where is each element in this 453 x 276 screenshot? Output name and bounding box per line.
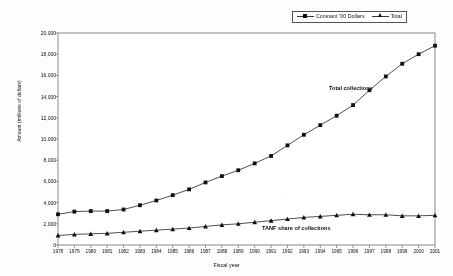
data-point-marker bbox=[351, 103, 355, 107]
x-tick-label: 1992 bbox=[282, 249, 292, 254]
x-tick-label: 1985 bbox=[168, 249, 178, 254]
data-point-marker bbox=[204, 181, 208, 185]
data-point-marker bbox=[187, 187, 191, 191]
x-tick-label: 1995 bbox=[331, 249, 341, 254]
data-point-marker bbox=[269, 154, 273, 158]
y-axis-title: Amount (millions of dollars) bbox=[16, 36, 22, 186]
x-tick-label: 1979 bbox=[69, 249, 79, 254]
data-point-marker bbox=[105, 209, 109, 213]
x-tick-label: 1999 bbox=[397, 249, 407, 254]
x-axis-title: Fiscal year bbox=[0, 262, 453, 268]
x-tick-label: 1984 bbox=[151, 249, 161, 254]
plot-frame bbox=[58, 33, 435, 245]
chart-plot-area bbox=[0, 0, 453, 276]
x-tick-label: 1980 bbox=[86, 249, 96, 254]
x-tick-label: 1982 bbox=[118, 249, 128, 254]
y-tick-label: 18,000 bbox=[6, 51, 56, 57]
data-point-marker bbox=[154, 199, 158, 203]
legend-label-total: Total bbox=[391, 14, 402, 19]
annotation-tanf-share: TANF share of collections bbox=[262, 225, 331, 231]
data-point-marker bbox=[253, 161, 257, 165]
x-tick-label: 1998 bbox=[381, 249, 391, 254]
y-tick-label: 8,000 bbox=[6, 157, 56, 163]
legend-marker-triangle-icon bbox=[372, 13, 389, 20]
x-tick-label: 1989 bbox=[233, 249, 243, 254]
y-tick-label: 6,000 bbox=[6, 178, 56, 184]
x-tick-label: 1986 bbox=[184, 249, 194, 254]
x-tick-label: 1988 bbox=[217, 249, 227, 254]
data-point-marker bbox=[433, 44, 437, 48]
x-tick-label: 1978 bbox=[53, 249, 63, 254]
data-point-marker bbox=[72, 210, 76, 214]
data-point-marker bbox=[56, 212, 60, 216]
x-tick-label: 1994 bbox=[315, 249, 325, 254]
x-tick-label: 1997 bbox=[364, 249, 374, 254]
legend-marker-square-icon bbox=[297, 13, 314, 20]
legend-entry-constant-dollars: Constant '00 Dollars bbox=[297, 13, 365, 20]
data-point-marker bbox=[89, 209, 93, 213]
chart-legend: Constant '00 Dollars Total bbox=[292, 11, 407, 23]
y-tick-label: 2,000 bbox=[6, 221, 56, 227]
y-tick-label: 4,000 bbox=[6, 200, 56, 206]
annotation-total-collections: Total collections bbox=[329, 85, 373, 91]
y-axis-tick-labels: 02,0004,0006,0008,00010,00012,00014,0001… bbox=[0, 0, 56, 276]
y-tick-label: 20,000 bbox=[6, 30, 56, 36]
data-point-marker bbox=[171, 193, 175, 197]
data-point-marker bbox=[220, 174, 224, 178]
y-tick-label: 14,000 bbox=[6, 94, 56, 100]
data-point-marker bbox=[400, 62, 404, 66]
data-point-marker bbox=[318, 123, 322, 127]
x-tick-label: 1996 bbox=[348, 249, 358, 254]
x-tick-label: 2001 bbox=[430, 249, 440, 254]
x-tick-label: 1991 bbox=[266, 249, 276, 254]
x-tick-label: 2000 bbox=[413, 249, 423, 254]
y-tick-label: 12,000 bbox=[6, 115, 56, 121]
legend-label-constant-dollars: Constant '00 Dollars bbox=[316, 14, 365, 19]
data-point-marker bbox=[335, 114, 339, 118]
x-tick-label: 1983 bbox=[135, 249, 145, 254]
data-point-marker bbox=[138, 203, 142, 207]
data-point-marker bbox=[384, 75, 388, 79]
x-tick-label: 1993 bbox=[299, 249, 309, 254]
x-tick-label: 1987 bbox=[200, 249, 210, 254]
data-point-marker bbox=[302, 133, 306, 137]
data-point-marker bbox=[122, 208, 126, 212]
x-tick-label: 1990 bbox=[249, 249, 259, 254]
data-point-marker bbox=[286, 143, 290, 147]
x-tick-label: 1981 bbox=[102, 249, 112, 254]
y-tick-label: 16,000 bbox=[6, 72, 56, 78]
y-tick-label: 10,000 bbox=[6, 136, 56, 142]
legend-entry-total: Total bbox=[372, 13, 402, 20]
data-point-marker bbox=[236, 168, 240, 172]
y-tick-label: 0 bbox=[6, 242, 56, 248]
data-point-marker bbox=[417, 52, 421, 56]
chart-container: 02,0004,0006,0008,00010,00012,00014,0001… bbox=[0, 0, 453, 276]
